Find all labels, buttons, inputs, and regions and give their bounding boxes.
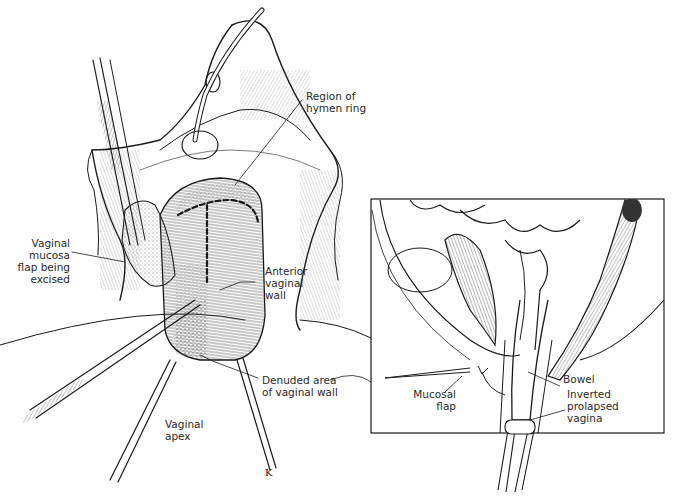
label-vaginal-apex: Vaginal apex — [165, 418, 203, 442]
label-anterior-vaginal-wall: Anterior vaginal wall — [265, 265, 307, 301]
label-inverted-prolapsed-vagina: Inverted prolapsed vagina — [567, 388, 619, 424]
prolapsed-vagina — [160, 178, 265, 360]
label-vaginal-mucosa-flap: Vaginal mucosa flap being excised — [10, 237, 70, 285]
label-region-of-hymen-ring: Region of hymen ring — [306, 90, 366, 114]
label-bowel: Bowel — [563, 373, 595, 385]
label-mucosal-flap: Mucosal flap — [400, 388, 456, 412]
clamp-lower-left — [110, 360, 170, 480]
artist-mark: K — [265, 467, 273, 478]
label-denuded-area: Denuded area of vaginal wall — [262, 374, 338, 398]
inset-view — [330, 198, 664, 492]
